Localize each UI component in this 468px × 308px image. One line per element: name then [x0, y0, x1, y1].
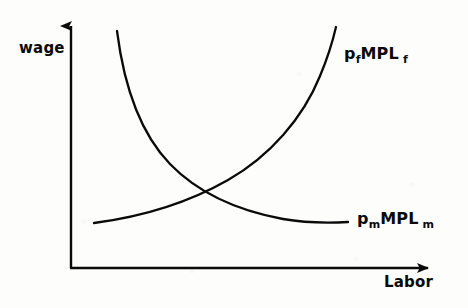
demand-curve-label: pmMPLm	[357, 211, 434, 230]
y-axis-label: wage	[19, 41, 65, 56]
demand-label-mpl: MPL	[380, 209, 418, 228]
supply-label-mpl-subscript: f	[403, 53, 408, 66]
demand-label-p: p	[357, 209, 369, 228]
supply-curve-pf-mpl-f	[94, 27, 336, 223]
x-axis-label: Labor	[384, 275, 433, 290]
demand-label-p-subscript: m	[369, 218, 380, 231]
demand-label-mpl-subscript: m	[423, 218, 435, 231]
supply-curve-label: pfMPLf	[344, 46, 408, 65]
economics-diagram: wage Labor pfMPLf pmMPLm	[0, 0, 468, 308]
supply-label-mpl: MPL	[360, 44, 398, 63]
demand-curve-pm-mpl-m	[117, 31, 348, 223]
supply-label-p: p	[344, 44, 356, 63]
